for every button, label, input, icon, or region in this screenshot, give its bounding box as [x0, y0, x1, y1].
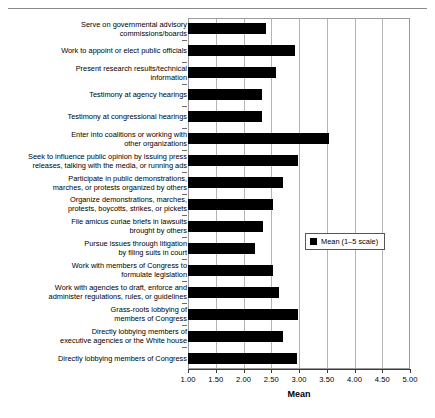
- y-tick-mark: [182, 215, 187, 216]
- x-tick-label: 3.00: [284, 375, 314, 384]
- bar: [188, 133, 329, 144]
- y-tick-mark: [182, 40, 187, 41]
- category-label: Pursue issues through litigationby filin…: [2, 239, 187, 257]
- bar: [188, 199, 273, 210]
- bar: [188, 89, 262, 100]
- header-divider: [8, 8, 427, 9]
- bar: [188, 67, 276, 78]
- bar: [188, 287, 279, 298]
- bar: [188, 331, 283, 342]
- bar: [188, 111, 262, 122]
- y-tick-mark: [182, 128, 187, 129]
- y-tick-mark: [182, 259, 187, 260]
- category-label: Enter into coalitions or working withoth…: [2, 130, 187, 148]
- chart-legend: Mean (1–5 scale): [305, 233, 385, 250]
- x-tick-label: 1.00: [173, 375, 203, 384]
- category-label: Work to appoint or elect public official…: [2, 46, 187, 55]
- x-tick-mark: [355, 369, 356, 373]
- y-tick-mark: [182, 62, 187, 63]
- bar: [188, 265, 273, 276]
- y-tick-mark: [182, 303, 187, 304]
- bar: [188, 45, 295, 56]
- x-tick-mark: [244, 369, 245, 373]
- x-tick-mark: [271, 369, 272, 373]
- x-tick-label: 1.50: [201, 375, 231, 384]
- category-label: Organize demonstrations, marches,protest…: [2, 195, 187, 213]
- category-label: Work with agencies to draft, enforce and…: [2, 283, 187, 301]
- category-label: Work with members of Congress toformulat…: [2, 261, 187, 279]
- bar: [188, 243, 255, 254]
- bar: [188, 353, 297, 364]
- x-tick-label: 2.00: [229, 375, 259, 384]
- x-tick-label: 4.00: [340, 375, 370, 384]
- x-tick-mark: [410, 369, 411, 373]
- x-tick-label: 4.50: [367, 375, 397, 384]
- legend-label-mean: Mean (1–5 scale): [321, 237, 378, 246]
- y-tick-mark: [182, 106, 187, 107]
- x-axis-title: Mean: [188, 389, 410, 399]
- x-tick-label: 5.00: [395, 375, 425, 384]
- category-label: File amicus curiae briefs in lawsuitsbro…: [2, 217, 187, 235]
- category-label: Present research results/technicalinform…: [2, 64, 187, 82]
- x-tick-mark: [216, 369, 217, 373]
- y-tick-mark: [182, 84, 187, 85]
- bar: [188, 177, 283, 188]
- x-tick-mark: [188, 369, 189, 373]
- bar: [188, 155, 298, 166]
- x-tick-mark: [382, 369, 383, 373]
- bar: [188, 23, 266, 34]
- y-tick-mark: [182, 150, 187, 151]
- y-tick-mark: [182, 281, 187, 282]
- x-tick-mark: [327, 369, 328, 373]
- category-label: Directly lobbying members ofexecutive ag…: [2, 327, 187, 345]
- category-label: Directly lobbying members of Congress: [2, 354, 187, 363]
- x-tick-label: 2.50: [256, 375, 286, 384]
- x-tick-label: 3.50: [312, 375, 342, 384]
- category-label: Testimony at congressional hearings: [2, 112, 187, 121]
- category-label: Participate in public demonstrations,mar…: [2, 174, 187, 192]
- y-tick-mark: [182, 172, 187, 173]
- y-tick-mark: [182, 194, 187, 195]
- bar-series: [188, 18, 410, 369]
- category-label: Testimony at agency hearings: [2, 90, 187, 99]
- chart-page: Serve on governmental advisorycommission…: [0, 0, 435, 418]
- legend-swatch-mean: [310, 238, 317, 245]
- bar: [188, 221, 263, 232]
- y-tick-mark: [182, 237, 187, 238]
- y-tick-mark: [182, 325, 187, 326]
- category-label: Serve on governmental advisorycommission…: [2, 20, 187, 38]
- x-tick-mark: [299, 369, 300, 373]
- category-label: Grass-roots lobbying ofmembers of Congre…: [2, 305, 187, 323]
- category-label: Seek to influence public opinion by issu…: [2, 152, 187, 170]
- horizontal-bar-chart: Serve on governmental advisorycommission…: [0, 14, 435, 418]
- bar: [188, 309, 298, 320]
- y-tick-mark: [182, 347, 187, 348]
